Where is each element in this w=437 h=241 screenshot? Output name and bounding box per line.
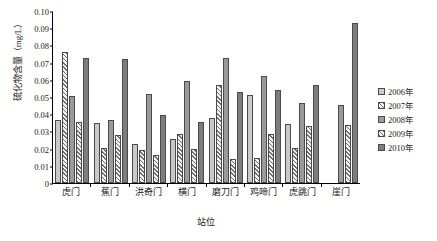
legend-swatch-icon: [378, 130, 385, 137]
bar: [177, 134, 183, 183]
bar-group: [130, 12, 168, 183]
legend-item-label: 2010年: [388, 141, 414, 153]
bar: [55, 120, 61, 183]
bar: [69, 96, 75, 183]
legend-item: 2010年: [378, 140, 414, 154]
bar: [115, 135, 121, 183]
bar: [122, 59, 128, 183]
x-axis-title: 站位: [52, 215, 360, 228]
sulfide-content-bar-chart: 硫化物含量（mg/L） 0.100.090.080.070.060.050.04…: [0, 0, 437, 241]
x-tick-label: 磨刀门: [206, 186, 245, 198]
bar: [209, 118, 215, 183]
bar: [306, 126, 312, 183]
x-tick-label: 虎跳门: [283, 186, 322, 198]
legend-item-label: 2008年: [388, 113, 414, 125]
bar-group: [91, 12, 129, 183]
bar: [223, 58, 229, 183]
x-axis-tick-labels: 虎门蕉门洪奇门横门磨刀门鸡啼门虎跳门崖门: [52, 186, 360, 198]
legend-item-label: 2007年: [388, 99, 414, 111]
bar: [146, 94, 152, 183]
x-tick-label: 蕉门: [91, 186, 130, 198]
bar: [170, 139, 176, 183]
x-tick-label: 洪奇门: [129, 186, 168, 198]
bar: [101, 148, 107, 183]
bar: [216, 85, 222, 183]
legend-item: 2007年: [378, 98, 414, 112]
bar-group: [245, 12, 283, 183]
bar: [94, 123, 100, 183]
bar: [132, 144, 138, 183]
bar: [62, 52, 68, 183]
bar: [184, 81, 190, 183]
bar: [313, 85, 319, 183]
bar: [275, 90, 281, 183]
bar: [292, 148, 298, 183]
bar: [254, 158, 260, 183]
plot-area: 0.100.090.080.070.060.050.040.030.020.01…: [52, 12, 360, 184]
bar: [230, 159, 236, 183]
bar: [108, 120, 114, 183]
legend-item: 2008年: [378, 112, 414, 126]
legend-swatch-icon: [378, 116, 385, 123]
bar: [76, 122, 82, 183]
y-axis-title: 硫化物含量（mg/L）: [13, 0, 23, 140]
bar: [268, 134, 274, 183]
y-tick-mark: [50, 184, 53, 185]
legend-swatch-icon: [378, 102, 385, 109]
legend: 2006年2007年2008年2009年2010年: [378, 84, 414, 154]
bar: [261, 76, 267, 183]
bar: [153, 155, 159, 183]
x-tick-label: 鸡啼门: [245, 186, 284, 198]
bar: [345, 125, 351, 183]
legend-item: 2006年: [378, 84, 414, 98]
bar: [299, 103, 305, 183]
bar: [160, 115, 166, 183]
bar-group: [322, 12, 360, 183]
bar: [247, 95, 253, 183]
bar-group: [53, 12, 91, 183]
bar: [83, 58, 89, 183]
legend-item-label: 2006年: [388, 85, 414, 97]
bar: [352, 23, 358, 183]
x-tick-label: 崖门: [322, 186, 361, 198]
bar: [285, 124, 291, 183]
legend-swatch-icon: [378, 88, 385, 95]
legend-swatch-icon: [378, 144, 385, 151]
bar: [237, 92, 243, 183]
bar: [191, 149, 197, 183]
legend-item: 2009年: [378, 126, 414, 140]
bar-group: [168, 12, 206, 183]
x-tick-label: 虎门: [52, 186, 91, 198]
bar: [198, 122, 204, 183]
bar-group: [207, 12, 245, 183]
bar: [338, 105, 344, 183]
bar-group: [283, 12, 321, 183]
bar: [139, 150, 145, 183]
legend-item-label: 2009年: [388, 127, 414, 139]
bar-groups: [53, 12, 360, 183]
x-tick-label: 横门: [168, 186, 207, 198]
